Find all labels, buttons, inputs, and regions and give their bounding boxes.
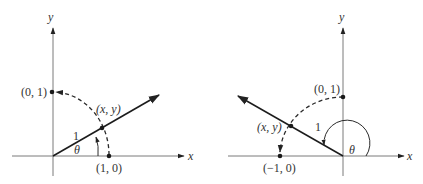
point-neg1-0 — [278, 154, 283, 159]
point-1-0 — [107, 154, 112, 159]
label-x-y: (x, y) — [96, 102, 121, 116]
radius-label: 1 — [315, 120, 321, 134]
x-axis-label: x — [187, 149, 194, 163]
point-x-y — [289, 124, 294, 129]
label-1-0: (1, 0) — [96, 161, 122, 175]
point-0-1 — [50, 90, 55, 95]
figure-second-quadrant: x y (0, 1) (−1, 0) (x, y) 1 θ — [228, 10, 413, 176]
point-x-y — [100, 126, 105, 131]
label-0-1: (0, 1) — [21, 85, 47, 99]
y-axis-label: y — [47, 10, 54, 24]
angle-arc-arrow — [324, 120, 370, 156]
figure-first-quadrant: x y (0, 1) (1, 0) (x, y) 1 θ — [12, 10, 194, 176]
label-neg1-0: (−1, 0) — [263, 161, 296, 175]
label-0-1: (0, 1) — [314, 82, 340, 96]
y-axis-label: y — [338, 10, 345, 24]
point-0-1 — [341, 95, 346, 100]
x-axis-label: x — [406, 149, 413, 163]
label-x-y: (x, y) — [257, 120, 282, 134]
angle-label: θ — [74, 143, 80, 157]
radius-label: 1 — [73, 129, 79, 143]
angle-label: θ — [349, 143, 355, 157]
angle-arc-arrow — [96, 137, 98, 156]
unit-circle-diagrams: x y (0, 1) (1, 0) (x, y) 1 θ x y — [0, 0, 423, 184]
